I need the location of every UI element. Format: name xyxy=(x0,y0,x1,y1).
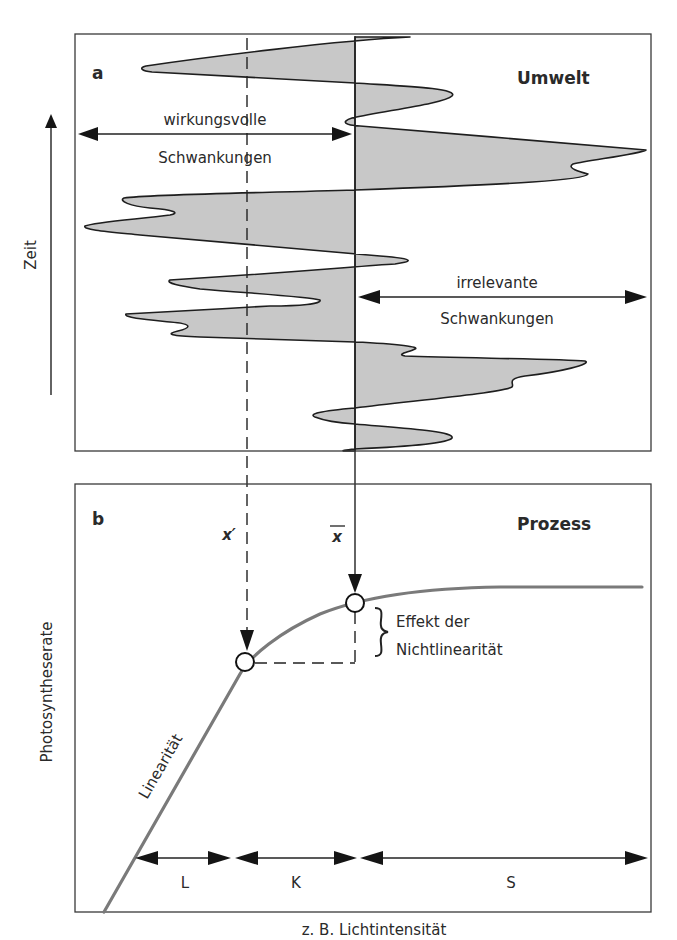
time-axis-label: Zeit xyxy=(22,240,40,270)
panel-a-title: Umwelt xyxy=(517,68,590,88)
effect-label-2: Nichtlinearität xyxy=(396,641,503,659)
range-arrow-S xyxy=(360,851,648,865)
effect-label-1: Effekt der xyxy=(396,613,470,631)
x-prime-arrowhead xyxy=(240,630,254,651)
effective-fluctuations-label-1: wirkungsvolle xyxy=(164,111,267,129)
response-curve xyxy=(104,587,642,912)
panel-a: a Umwelt wirkungsvolle Schwankungen irre… xyxy=(75,34,651,648)
x-bar-label: x xyxy=(331,528,343,546)
irrelevant-fluctuations-label-2: Schwankungen xyxy=(440,310,554,328)
effective-fluctuations-label-2: Schwankungen xyxy=(158,149,272,167)
irrelevant-fluctuations-label-1: irrelevante xyxy=(456,274,537,292)
range-label-K: K xyxy=(291,874,302,892)
panel-b-title: Prozess xyxy=(517,514,591,534)
point-x-prime xyxy=(236,653,254,671)
up-arrow-icon xyxy=(45,114,57,128)
photosynthesis-axis-label: Photosyntheserate xyxy=(38,621,56,762)
range-label-L: L xyxy=(181,874,190,892)
panel-a-letter: a xyxy=(92,63,103,83)
range-label-S: S xyxy=(506,874,516,892)
time-axis: Zeit xyxy=(22,114,57,395)
irrelevant-fluctuations-arrow xyxy=(358,290,647,304)
diagram-canvas: a Umwelt wirkungsvolle Schwankungen irre… xyxy=(0,0,677,940)
panel-b-letter: b xyxy=(92,509,104,529)
effective-fluctuations-arrow xyxy=(78,127,352,141)
range-arrow-K xyxy=(235,851,357,865)
linearity-label: Linearität xyxy=(135,731,187,802)
panel-b: b Prozess x′ x Effekt der Nichtlinearitä… xyxy=(75,484,651,912)
environment-fluctuation-wave xyxy=(85,37,646,451)
range-arrow-L xyxy=(135,851,231,865)
panel-b-frame xyxy=(75,484,651,912)
light-intensity-axis-label: z. B. Lichtintensität xyxy=(302,921,447,939)
brace-icon xyxy=(375,608,388,656)
point-x-bar xyxy=(346,594,364,612)
x-prime-label: x′ xyxy=(221,526,236,544)
x-bar-arrowhead xyxy=(348,574,362,593)
